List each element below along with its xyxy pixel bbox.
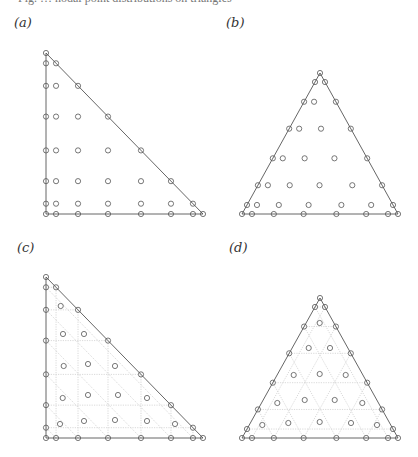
grid-line: [315, 307, 388, 438]
node-marker: [53, 114, 58, 119]
node-marker: [374, 422, 379, 427]
node-marker: [369, 202, 374, 207]
node-marker: [327, 345, 332, 350]
node-marker: [53, 201, 58, 206]
node-marker: [60, 395, 65, 400]
node-marker: [57, 421, 62, 426]
node-marker: [350, 183, 355, 188]
node-marker: [286, 420, 291, 425]
node-marker: [138, 179, 143, 184]
panel-d: [239, 295, 400, 440]
node-marker: [297, 126, 302, 131]
node-marker: [168, 201, 173, 206]
node-marker: [260, 422, 265, 427]
triangle-edge: [242, 298, 320, 438]
grid-line: [336, 383, 367, 438]
triangle-edge: [320, 298, 398, 438]
node-marker: [291, 372, 296, 377]
grid-line: [273, 383, 304, 438]
node-marker: [115, 392, 120, 397]
node-marker: [53, 83, 58, 88]
node-marker: [75, 148, 80, 153]
panel-b: [239, 70, 400, 216]
grid-line: [46, 374, 108, 438]
node-marker: [287, 183, 292, 188]
node-marker: [105, 201, 110, 206]
node-marker: [85, 361, 90, 366]
triangle-edge: [320, 73, 398, 214]
node-marker: [75, 179, 80, 184]
node-marker: [343, 372, 348, 377]
node-marker: [112, 363, 117, 368]
node-marker: [112, 417, 117, 422]
node-marker: [302, 156, 307, 161]
node-marker: [75, 114, 80, 119]
triangle-edge: [242, 73, 320, 214]
node-marker: [339, 202, 344, 207]
node-marker: [254, 202, 259, 207]
node-marker: [144, 395, 149, 400]
node-marker: [332, 156, 337, 161]
grid-line: [46, 428, 56, 438]
node-marker: [138, 201, 143, 206]
node-marker: [360, 400, 365, 405]
node-marker: [348, 420, 353, 425]
node-marker: [265, 183, 270, 188]
node-marker: [317, 183, 322, 188]
grid-line: [46, 405, 78, 438]
node-marker: [105, 179, 110, 184]
node-marker: [318, 126, 323, 131]
node-marker: [306, 345, 311, 350]
node-marker: [302, 397, 307, 402]
node-marker: [275, 400, 280, 405]
node-marker: [85, 392, 90, 397]
node-marker: [332, 397, 337, 402]
node-marker: [317, 419, 322, 424]
node-marker: [280, 156, 285, 161]
triangle-edge: [46, 53, 203, 214]
node-marker: [60, 331, 65, 336]
node-marker: [317, 371, 322, 376]
panel-c: [43, 274, 205, 440]
node-marker: [81, 331, 86, 336]
node-marker: [105, 148, 110, 153]
node-marker: [75, 201, 80, 206]
node-marker: [81, 418, 86, 423]
grid-line: [46, 310, 171, 438]
node-marker: [317, 320, 322, 325]
figure-canvas: [0, 0, 418, 457]
node-marker: [144, 418, 149, 423]
node-marker: [311, 99, 316, 104]
triangle-edge: [46, 277, 203, 438]
node-marker: [53, 148, 58, 153]
node-marker: [172, 421, 177, 426]
panel-a: [43, 50, 205, 216]
node-marker: [276, 202, 281, 207]
node-marker: [58, 303, 63, 308]
node-marker: [306, 202, 311, 207]
node-marker: [61, 363, 66, 368]
node-marker: [53, 179, 58, 184]
